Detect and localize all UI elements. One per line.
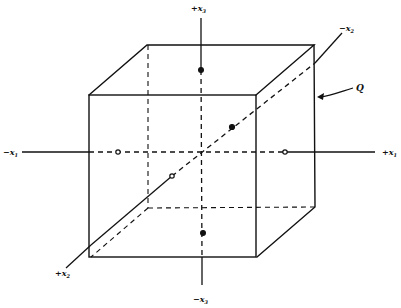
- point-front: [170, 174, 174, 178]
- point-back: [230, 125, 235, 130]
- axes: [22, 18, 375, 285]
- q-pointer-arrow: [320, 88, 353, 97]
- point-left: [116, 150, 120, 154]
- label-plus-x1: +x1: [382, 147, 397, 158]
- point-top: [199, 68, 204, 73]
- label-minus-x3: −x3: [193, 294, 208, 305]
- axis-x3-dashed: [201, 70, 202, 257]
- label-minus-x1: −x1: [3, 147, 18, 158]
- point-right: [283, 150, 287, 154]
- cube-diagram: +x3 −x3 −x1 +x1 +x2 −x2 Q: [0, 0, 401, 308]
- axis-x2-minus-solid: [315, 33, 342, 63]
- label-plus-x3: +x3: [191, 3, 206, 14]
- axis-x2-front-solid: [91, 176, 172, 245]
- arrowhead-icon: [317, 93, 324, 100]
- label-minus-x2: −x2: [339, 23, 354, 34]
- axis-x2-dashed: [172, 63, 315, 176]
- axis-x2-plus-solid: [66, 245, 91, 268]
- label-cube-q: Q: [356, 83, 364, 93]
- point-bottom: [201, 231, 206, 236]
- label-plus-x2: +x2: [55, 268, 70, 279]
